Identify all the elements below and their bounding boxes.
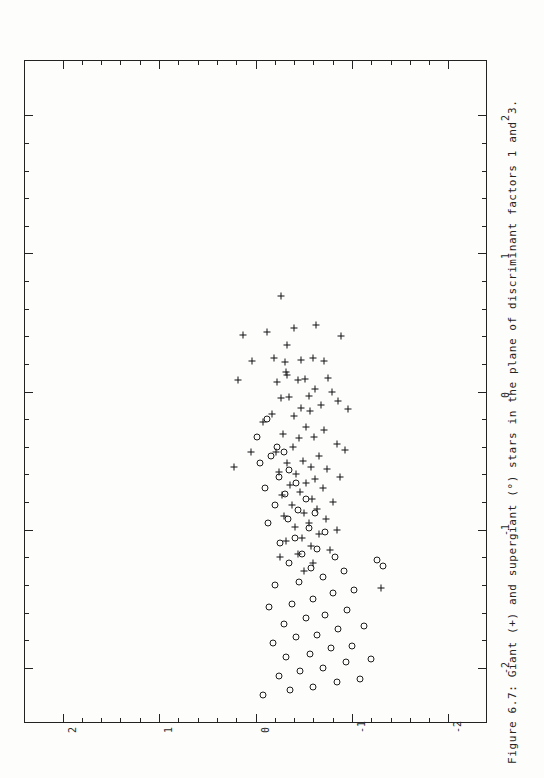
data-point-giant: [260, 418, 267, 425]
data-point-giant: [302, 479, 309, 486]
minor-tick-bottom: [101, 718, 102, 723]
data-point-supergiant: [327, 645, 334, 652]
data-point-supergiant: [329, 590, 336, 597]
data-point-supergiant: [298, 551, 305, 558]
data-point-supergiant: [260, 692, 267, 699]
minor-tick-top: [101, 60, 102, 65]
data-point-supergiant: [275, 474, 282, 481]
data-point-supergiant: [305, 525, 312, 532]
figure-page: 210-1-2 210-1-2 Figure 6.7: Giant (+) an…: [0, 0, 544, 778]
data-point-supergiant: [320, 664, 327, 671]
major-tick-top: [352, 60, 353, 69]
data-point-supergiant: [308, 565, 315, 572]
data-point-giant: [300, 568, 307, 575]
minor-tick-right: [482, 143, 487, 144]
data-point-giant: [290, 443, 297, 450]
scatter-plot: [24, 60, 487, 723]
minor-tick-left: [24, 585, 29, 586]
data-point-supergiant: [271, 501, 278, 508]
minor-tick-right: [482, 226, 487, 227]
data-point-supergiant: [341, 568, 348, 575]
major-tick-right: [478, 253, 487, 254]
data-point-supergiant: [344, 606, 351, 613]
major-tick-top: [448, 60, 449, 69]
major-tick-right: [478, 530, 487, 531]
data-point-giant: [308, 464, 315, 471]
data-point-supergiant: [310, 684, 317, 691]
data-point-giant: [248, 358, 255, 365]
data-point-giant: [278, 492, 285, 499]
data-point-giant: [328, 388, 335, 395]
minor-tick-left: [24, 613, 29, 614]
minor-tick-top: [140, 60, 141, 65]
data-point-giant: [335, 398, 342, 405]
minor-tick-left: [24, 557, 29, 558]
data-point-supergiant: [282, 490, 289, 497]
data-point-supergiant: [262, 485, 269, 492]
major-tick-left: [24, 668, 33, 669]
major-tick-left: [24, 530, 33, 531]
data-point-supergiant: [292, 534, 299, 541]
minor-tick-left: [24, 419, 29, 420]
major-tick-top: [256, 60, 257, 69]
data-point-giant: [291, 413, 298, 420]
data-point-supergiant: [269, 639, 276, 646]
minor-tick-bottom: [371, 718, 372, 723]
data-point-giant: [268, 410, 275, 417]
minor-tick-left: [24, 640, 29, 641]
data-point-giant: [279, 431, 286, 438]
data-point-giant: [284, 341, 291, 348]
data-point-giant: [231, 464, 238, 471]
minor-tick-right: [482, 474, 487, 475]
data-point-supergiant: [321, 612, 328, 619]
tick-label-bottom: 2: [68, 727, 78, 733]
data-point-supergiant: [254, 434, 261, 441]
major-tick-right: [478, 392, 487, 393]
data-point-supergiant: [286, 559, 293, 566]
minor-tick-top: [429, 60, 430, 65]
data-point-layer: [24, 60, 487, 723]
data-point-giant: [293, 471, 300, 478]
data-point-supergiant: [320, 573, 327, 580]
minor-tick-top: [410, 60, 411, 65]
data-point-giant: [284, 371, 291, 378]
data-point-supergiant: [266, 603, 273, 610]
data-point-giant: [270, 355, 277, 362]
minor-tick-top: [275, 60, 276, 65]
data-point-giant: [329, 499, 336, 506]
major-tick-bottom: [159, 714, 160, 723]
data-point-giant: [312, 475, 319, 482]
data-point-supergiant: [281, 620, 288, 627]
data-point-giant: [273, 378, 280, 385]
major-tick-left: [24, 392, 33, 393]
data-point-giant: [307, 407, 314, 414]
data-point-giant: [310, 559, 317, 566]
data-point-giant: [275, 468, 282, 475]
minor-tick-right: [482, 419, 487, 420]
data-point-giant: [311, 434, 318, 441]
data-point-supergiant: [293, 479, 300, 486]
minor-tick-left: [24, 336, 29, 337]
data-point-supergiant: [281, 449, 288, 456]
data-point-giant: [294, 551, 301, 558]
major-tick-bottom: [256, 714, 257, 723]
data-point-giant: [299, 457, 306, 464]
minor-tick-bottom: [410, 718, 411, 723]
data-point-giant: [272, 449, 279, 456]
data-point-supergiant: [273, 443, 280, 450]
data-point-giant: [345, 406, 352, 413]
minor-tick-right: [482, 309, 487, 310]
data-point-supergiant: [314, 631, 321, 638]
data-point-giant: [338, 333, 345, 340]
data-point-giant: [334, 526, 341, 533]
minor-tick-top: [391, 60, 392, 65]
data-point-supergiant: [257, 460, 264, 467]
minor-tick-bottom: [82, 718, 83, 723]
data-point-supergiant: [379, 562, 386, 569]
data-point-supergiant: [348, 642, 355, 649]
data-point-giant: [322, 515, 329, 522]
minor-tick-bottom: [198, 718, 199, 723]
data-point-giant: [297, 405, 304, 412]
data-point-giant: [286, 394, 293, 401]
minor-tick-top: [198, 60, 199, 65]
